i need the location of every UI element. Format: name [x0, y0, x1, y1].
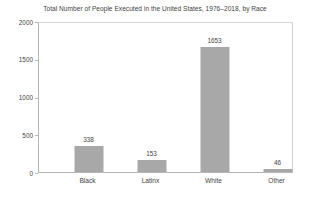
- y-axis: 0 500 1000 1500 2000: [0, 22, 38, 173]
- bar-slot-white: 1653: [183, 23, 246, 172]
- y-axis-tick-label: 1500: [19, 55, 33, 64]
- y-axis-tick-mark: [35, 173, 38, 174]
- y-axis-tick-label: 0: [29, 169, 33, 178]
- y-axis-tick-label: 2000: [19, 18, 33, 27]
- bar-slot-black: 338: [57, 23, 120, 172]
- bar-black[interactable]: [74, 146, 103, 172]
- bars-layer: 338 153 1653 46: [39, 23, 292, 172]
- x-axis-label-black: Black: [56, 176, 119, 186]
- bar-value-black: 338: [83, 136, 94, 144]
- bar-value-white: 1653: [207, 37, 221, 45]
- bar-chart-figure: Total Number of People Executed in the U…: [0, 0, 310, 202]
- x-axis-label-white: White: [182, 176, 245, 186]
- plot-area: 338 153 1653 46: [38, 22, 293, 173]
- y-axis-tick-label: 1000: [19, 93, 33, 102]
- bar-slot-other: 46: [246, 23, 309, 172]
- bar-slot-latinx: 153: [120, 23, 183, 172]
- x-axis-label-other: Other: [245, 176, 308, 186]
- bar-value-latinx: 153: [146, 150, 157, 158]
- bar-other[interactable]: [263, 169, 292, 172]
- chart-title: Total Number of People Executed in the U…: [0, 4, 310, 13]
- bar-latinx[interactable]: [137, 160, 166, 172]
- y-axis-tick-label: 500: [22, 131, 33, 140]
- bar-white[interactable]: [200, 47, 229, 172]
- x-axis-label-latinx: Latinx: [119, 176, 182, 186]
- x-axis: Black Latinx White Other: [38, 176, 293, 192]
- bar-value-other: 46: [274, 159, 281, 167]
